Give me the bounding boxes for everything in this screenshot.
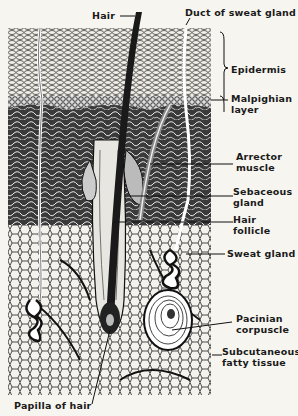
label-arrector-muscle: Arrector muscle	[236, 151, 282, 173]
label-subcut-line1: Subcutaneous	[222, 346, 298, 357]
pacinian-corpuscle	[144, 290, 192, 350]
label-sebaceous-line1: Sebaceous	[233, 186, 292, 197]
label-pacinian-line2: corpuscle	[236, 324, 289, 335]
label-malpighian-layer: Malpighian layer	[231, 93, 292, 115]
label-pacinian-corpuscle: Pacinian corpuscle	[236, 313, 289, 335]
label-malpighian-line1: Malpighian	[231, 93, 292, 104]
label-epidermis: Epidermis	[231, 64, 286, 75]
label-duct-of-sweat-gland: Duct of sweat gland	[185, 7, 296, 18]
label-follicle-line2: follicle	[233, 225, 270, 236]
label-arrector-line1: Arrector	[236, 151, 282, 162]
label-follicle-line1: Hair	[233, 214, 270, 225]
label-subcut-line2: fatty tissue	[222, 357, 298, 368]
label-sebaceous-line2: gland	[233, 197, 292, 208]
label-arrector-line2: muscle	[236, 162, 282, 173]
label-hair-follicle: Hair follicle	[233, 214, 270, 236]
label-hair: Hair	[92, 10, 115, 21]
label-sebaceous-gland: Sebaceous gland	[233, 186, 292, 208]
label-papilla-of-hair: Papilla of hair	[14, 400, 92, 411]
label-subcutaneous-fatty-tissue: Subcutaneous fatty tissue	[222, 346, 298, 368]
label-pacinian-line1: Pacinian	[236, 313, 289, 324]
label-sweat-gland: Sweat gland	[227, 248, 296, 259]
label-malpighian-line2: layer	[231, 104, 292, 115]
